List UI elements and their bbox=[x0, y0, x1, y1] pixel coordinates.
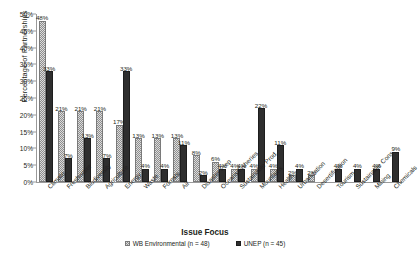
bar: 13% bbox=[84, 138, 91, 182]
bar-group: 6%4% bbox=[209, 14, 228, 182]
bar-value-label: 13% bbox=[81, 132, 93, 139]
bar-value-label: 21% bbox=[74, 105, 86, 112]
bar-value-label: 11% bbox=[178, 139, 190, 146]
legend-item: WB Environmental (n = 48) bbox=[125, 240, 210, 247]
x-axis-label-cell: Energy bbox=[113, 184, 132, 230]
x-axis-label-cell: Disaster Prep bbox=[190, 184, 209, 230]
x-axis-label-cell: Chemicals bbox=[383, 184, 402, 230]
plot-area: 0%5%10%15%20%25%30%35%40%45%50% 48%33%21… bbox=[36, 14, 402, 182]
chart-legend: WB Environmental (n = 48)UNEP (n = 45) bbox=[0, 240, 410, 247]
bar-groups: 48%33%21%7%21%13%21%7%17%33%13%4%13%4%13… bbox=[36, 14, 402, 182]
bar-group: 21%7% bbox=[94, 14, 113, 182]
bar-group: 4%4% bbox=[229, 14, 248, 182]
bar-group: 48%33% bbox=[36, 14, 55, 182]
x-axis-title: Issue Focus bbox=[0, 228, 410, 237]
x-axis-labels: ClimateFreshwaterBiodiversityAgriculture… bbox=[36, 184, 402, 230]
bar-value-label: 13% bbox=[152, 132, 164, 139]
x-axis-label-cell: Desertification bbox=[306, 184, 325, 230]
y-axis-tick-label: 25% bbox=[20, 95, 33, 102]
y-axis-tick-label: 10% bbox=[20, 145, 33, 152]
bar-value-label: 7% bbox=[64, 152, 73, 159]
legend-swatch-icon bbox=[236, 241, 241, 246]
bar-value-label: 4% bbox=[295, 162, 304, 169]
bar-value-label: 4% bbox=[160, 162, 169, 169]
x-axis-label-cell: Tourism bbox=[325, 184, 344, 230]
legend-swatch-icon bbox=[125, 241, 130, 246]
bar-group: 17%33% bbox=[113, 14, 132, 182]
x-axis-label-cell: Air bbox=[171, 184, 190, 230]
bar-group: 8%2% bbox=[190, 14, 209, 182]
x-axis-label-cell: Urbanization bbox=[286, 184, 305, 230]
y-axis-tick-label: 5% bbox=[23, 162, 33, 169]
x-axis-label-cell: Forests bbox=[152, 184, 171, 230]
x-axis-label-cell: Climate bbox=[36, 184, 55, 230]
bar-value-label: 21% bbox=[55, 105, 67, 112]
bar-value-label: 4% bbox=[353, 162, 362, 169]
x-axis-label-cell: Freshwater bbox=[55, 184, 74, 230]
bar-value-label: 48% bbox=[36, 14, 48, 21]
y-axis-tick-label: 40% bbox=[20, 44, 33, 51]
y-axis-tick-label: 0% bbox=[23, 179, 33, 186]
legend-item: UNEP (n = 45) bbox=[236, 240, 286, 247]
bar-value-label: 33% bbox=[120, 65, 132, 72]
x-axis-label-cell: Biodiversity bbox=[75, 184, 94, 230]
bar: 33% bbox=[46, 71, 53, 182]
bar-value-label: 21% bbox=[94, 105, 106, 112]
bar-value-label: 33% bbox=[43, 65, 55, 72]
x-axis-label-cell: Mining bbox=[364, 184, 383, 230]
y-axis-tick-label: 30% bbox=[20, 78, 33, 85]
bar-value-label: 22% bbox=[255, 102, 267, 109]
y-axis-tick-label: 15% bbox=[20, 128, 33, 135]
bar-value-label: 4% bbox=[141, 162, 150, 169]
bar-group: 13%4% bbox=[152, 14, 171, 182]
bar-group: 4% bbox=[364, 14, 383, 182]
bar-value-label: 8% bbox=[192, 149, 201, 156]
bar-group: 13%4% bbox=[132, 14, 151, 182]
bar-group: 2%4% bbox=[286, 14, 305, 182]
x-axis-label-cell: Waste bbox=[132, 184, 151, 230]
bar-group: 21%7% bbox=[55, 14, 74, 182]
x-axis-label-cell: Agriculture bbox=[94, 184, 113, 230]
bar-value-label: 7% bbox=[102, 152, 111, 159]
x-axis-label-cell: Oceans/Fisheries bbox=[209, 184, 228, 230]
y-axis-tick-label: 20% bbox=[20, 111, 33, 118]
bar-value-label: 13% bbox=[132, 132, 144, 139]
x-axis-label-cell: Sustainable Prod. bbox=[229, 184, 248, 230]
bar: 11% bbox=[180, 145, 187, 182]
x-axis-label-cell: Sustainable Cons. bbox=[344, 184, 363, 230]
y-axis-tick-label: 35% bbox=[20, 61, 33, 68]
y-axis-tick-label: 45% bbox=[20, 27, 33, 34]
bar-group: 4% bbox=[344, 14, 363, 182]
y-axis-tick-label: 50% bbox=[20, 11, 33, 18]
bar-group: 13%11% bbox=[171, 14, 190, 182]
bar: 48% bbox=[39, 21, 46, 182]
bar-group: 2% bbox=[306, 14, 325, 182]
x-axis-label-cell: Health bbox=[267, 184, 286, 230]
bar-value-label: 11% bbox=[274, 139, 286, 146]
bar-group: 21%13% bbox=[75, 14, 94, 182]
legend-label: UNEP (n = 45) bbox=[244, 240, 286, 247]
bar-value-label: 2% bbox=[199, 169, 208, 176]
legend-label: WB Environmental (n = 48) bbox=[133, 240, 210, 247]
x-axis-label-cell: Mountains bbox=[248, 184, 267, 230]
